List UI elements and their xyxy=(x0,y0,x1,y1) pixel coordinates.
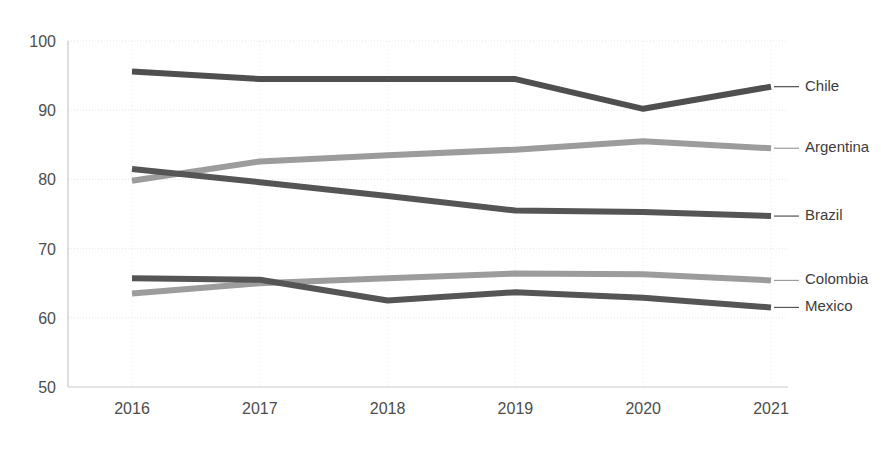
series-label-chile: Chile xyxy=(805,77,839,94)
x-axis-tick-labels: 201620172018201920202021 xyxy=(114,400,789,417)
y-tick-label-100: 100 xyxy=(29,33,56,50)
x-tick-label-2016: 2016 xyxy=(114,400,150,417)
line-chart: 5060708090100 201620172018201920202021 C… xyxy=(0,0,888,456)
x-tick-label-2018: 2018 xyxy=(370,400,406,417)
x-tick-label-2017: 2017 xyxy=(242,400,278,417)
y-tick-label-50: 50 xyxy=(38,379,56,396)
series-end-labels: ChileArgentinaBrazilColombiaMexico xyxy=(774,77,870,315)
series-label-brazil: Brazil xyxy=(805,206,843,223)
y-tick-label-90: 90 xyxy=(38,102,56,119)
x-tick-label-2019: 2019 xyxy=(498,400,534,417)
series-line-chile xyxy=(132,71,771,108)
series-label-colombia: Colombia xyxy=(805,270,869,287)
x-tick-label-2020: 2020 xyxy=(625,400,661,417)
y-axis-tick-labels: 5060708090100 xyxy=(29,33,56,396)
y-tick-label-70: 70 xyxy=(38,241,56,258)
y-tick-label-80: 80 xyxy=(38,171,56,188)
series-line-mexico xyxy=(132,278,771,307)
series-line-brazil xyxy=(132,169,771,216)
series-label-argentina: Argentina xyxy=(805,138,870,155)
x-tick-label-2021: 2021 xyxy=(753,400,789,417)
series-lines xyxy=(132,71,771,307)
series-label-mexico: Mexico xyxy=(805,297,853,314)
chart-canvas: 5060708090100 201620172018201920202021 C… xyxy=(0,0,888,456)
y-tick-label-60: 60 xyxy=(38,310,56,327)
series-line-argentina xyxy=(132,141,771,180)
